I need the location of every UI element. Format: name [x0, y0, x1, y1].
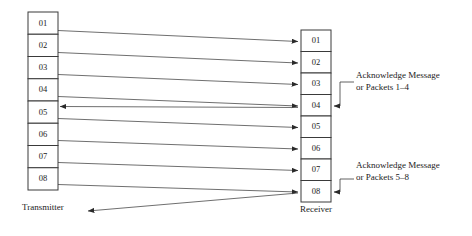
ack-note-1-4-leader-line — [334, 82, 354, 106]
transmitter-packet-label-03: 03 — [39, 62, 48, 72]
endpoint-label-group: TransmitterReceiver — [22, 202, 332, 214]
receiver-endpoint-label: Receiver — [300, 204, 332, 214]
ack-note-5-8-line-1: Acknowledge Message — [356, 160, 440, 170]
receiver-packet-label-02: 02 — [312, 57, 321, 67]
transmitter-endpoint-label: Transmitter — [22, 202, 64, 212]
ack-note-1-4-line-2: or Packets 1–4 — [356, 82, 409, 92]
packet-04-transfer — [58, 97, 298, 107]
acknowledge-arrow-group — [60, 107, 298, 212]
ack-1-4-return — [60, 107, 298, 108]
receiver-packet-label-05: 05 — [312, 121, 321, 131]
annotation-group: Acknowledge Messageor Packets 1–4Acknowl… — [334, 70, 440, 192]
receiver-packet-label-03: 03 — [312, 78, 321, 88]
packet-08-transfer — [58, 185, 298, 193]
sliding-window-diagram: 0102030405060708 0102030405060708 Acknow… — [0, 0, 472, 236]
diagram-canvas: 0102030405060708 0102030405060708 Acknow… — [0, 0, 472, 236]
packet-03-transfer — [58, 75, 298, 85]
packet-02-transfer — [58, 53, 298, 64]
ack-note-5-8-leader-line — [334, 179, 354, 192]
data-packet-arrow-group — [58, 31, 298, 193]
receiver-column: 0102030405060708 — [301, 30, 331, 202]
receiver-packet-label-06: 06 — [312, 143, 321, 153]
ack-note-1-4-line-1: Acknowledge Message — [356, 70, 440, 80]
ack-5-8-return — [88, 193, 298, 211]
packet-06-transfer — [58, 141, 298, 150]
packet-05-transfer — [58, 119, 298, 128]
transmitter-packet-label-07: 07 — [39, 151, 48, 161]
transmitter-packet-label-04: 04 — [39, 84, 48, 94]
transmitter-packet-label-06: 06 — [39, 129, 48, 139]
packet-07-transfer — [58, 163, 298, 171]
ack-note-5-8-line-2: or Packets 5–8 — [356, 172, 409, 182]
transmitter-packet-label-08: 08 — [39, 173, 48, 183]
receiver-packet-label-01: 01 — [312, 35, 321, 45]
transmitter-packet-label-02: 02 — [39, 40, 48, 50]
transmitter-packet-label-05: 05 — [39, 107, 48, 117]
receiver-packet-label-08: 08 — [312, 186, 321, 196]
receiver-packet-label-04: 04 — [312, 100, 321, 110]
transmitter-column: 0102030405060708 — [28, 12, 58, 190]
receiver-packet-label-07: 07 — [312, 164, 321, 174]
packet-01-transfer — [58, 31, 298, 42]
transmitter-packet-label-01: 01 — [39, 18, 48, 28]
